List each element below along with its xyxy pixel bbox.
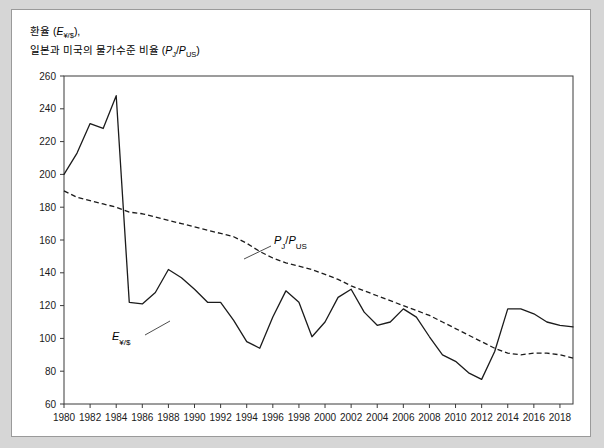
x-tick-label: 2004 (366, 412, 389, 423)
x-tick-label: 1994 (236, 412, 259, 423)
plot-area: 6080100120140160180200220240260 19801982… (12, 10, 592, 438)
annotation-label-exchange-rate: E¥/$ (112, 330, 131, 347)
y-axis-ticks: 6080100120140160180200220240260 (39, 71, 64, 410)
x-tick-label: 1990 (183, 412, 206, 423)
x-tick-label: 2008 (418, 412, 441, 423)
y-tick-label: 60 (45, 399, 57, 410)
x-tick-label: 1996 (262, 412, 285, 423)
x-tick-label: 2010 (444, 412, 467, 423)
x-tick-label: 2018 (549, 412, 572, 423)
x-tick-label: 1982 (79, 412, 102, 423)
y-tick-label: 240 (39, 103, 56, 114)
x-axis-ticks: 1980198219841986198819901992199419961998… (53, 404, 572, 423)
y-tick-label: 160 (39, 235, 56, 246)
leader-line-price-ratio (244, 246, 271, 259)
series-price-ratio (64, 191, 573, 358)
x-tick-label: 2012 (471, 412, 494, 423)
series-exchange-rate (64, 96, 573, 380)
x-tick-label: 2014 (497, 412, 520, 423)
x-tick-label: 1980 (53, 412, 76, 423)
x-tick-label: 1988 (157, 412, 180, 423)
x-tick-label: 2016 (523, 412, 546, 423)
y-tick-label: 120 (39, 300, 56, 311)
annotation-label-price-ratio: PJ/PUS (274, 234, 307, 251)
x-tick-label: 1984 (105, 412, 128, 423)
line-chart: 6080100120140160180200220240260 19801982… (12, 10, 592, 438)
leader-line-exchange-rate (145, 321, 170, 335)
plot-frame (64, 76, 573, 404)
x-tick-label: 1992 (209, 412, 232, 423)
y-tick-label: 180 (39, 202, 56, 213)
x-tick-label: 2006 (392, 412, 415, 423)
y-tick-label: 100 (39, 333, 56, 344)
annotation-exchange-rate: E¥/$ (112, 321, 170, 347)
y-tick-label: 260 (39, 71, 56, 82)
x-tick-label: 2000 (314, 412, 337, 423)
x-tick-label: 1998 (288, 412, 311, 423)
x-tick-label: 1986 (131, 412, 154, 423)
figure-card: 환율 (E¥/$), 일본과 미국의 물가수준 비율 (PJ/PUS) 6080… (11, 9, 591, 437)
y-tick-label: 200 (39, 169, 56, 180)
x-tick-label: 2002 (340, 412, 363, 423)
y-tick-label: 220 (39, 136, 56, 147)
y-tick-label: 80 (45, 366, 57, 377)
annotation-price-ratio: PJ/PUS (244, 234, 307, 259)
y-tick-label: 140 (39, 267, 56, 278)
